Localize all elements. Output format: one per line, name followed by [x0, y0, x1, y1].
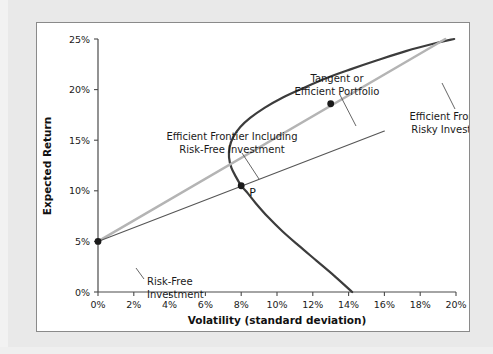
annotation-risk-free-investment-line2: Investment [147, 289, 204, 300]
x-tick-label-14%: 14% [338, 299, 359, 310]
portfolio-p-label: P [249, 186, 256, 199]
annotation-efficient-frontier-including-risk-free-line2: Risk-Free Investment [179, 144, 284, 155]
annotation-risk-free-investment-leader-line [136, 268, 144, 279]
annotation-efficient-frontier-of-risky-leader-line [442, 83, 455, 109]
screenshot-page: 0%2%4%6%8%10%12%14%16%18%20% 0%5%10%15%2… [0, 0, 493, 354]
x-axis-title: Volatility (standard deviation) [188, 314, 367, 326]
annotation-efficient-frontier-of-risky-line2: Risky Investments [411, 124, 469, 135]
x-tick-label-8%: 8% [234, 299, 249, 310]
tangent-portfolio-point [327, 100, 334, 107]
annotation-tangent-or-efficient-portfolio-line2: Efficient Portfolio [295, 86, 380, 97]
y-tick-label-10%: 10% [69, 185, 90, 196]
y-tick-label-25%: 25% [69, 34, 90, 45]
y-tick-label-20%: 20% [69, 84, 90, 95]
x-tick-label-4%: 4% [162, 299, 177, 310]
figure-frame: 0%2%4%6%8%10%12%14%16%18%20% 0%5%10%15%2… [36, 22, 470, 332]
x-tick-label-0%: 0% [90, 299, 105, 310]
annotation-efficient-frontier-including-risk-free-leader-line [242, 153, 259, 179]
annotation-efficient-frontier-of-risky-line1: Efficient Frontier of [409, 111, 469, 122]
y-axis-tick-labels: 0%5%10%15%20%25% [69, 34, 90, 298]
portfolio-p-point [238, 182, 245, 189]
annotation-risk-free-investment-line1: Risk-Free [147, 276, 193, 287]
efficient-frontier-chart: 0%2%4%6%8%10%12%14%16%18%20% 0%5%10%15%2… [37, 23, 469, 331]
page-background-band-bottom [0, 347, 493, 354]
annotation-tangent-or-efficient-portfolio-leader-line [340, 95, 356, 126]
chart-series-group [98, 39, 454, 292]
x-tick-label-2%: 2% [126, 299, 141, 310]
chart-annotations-group: Efficient Frontier IncludingRisk-Free In… [136, 73, 469, 300]
x-axis-tick-labels: 0%2%4%6%8%10%12%14%16%18%20% [90, 299, 466, 310]
x-tick-label-10%: 10% [266, 299, 287, 310]
y-tick-label-0%: 0% [75, 287, 90, 298]
axes [98, 39, 456, 292]
annotation-efficient-frontier-including-risk-free-line1: Efficient Frontier Including [166, 131, 297, 142]
risk-free-investment-point [95, 238, 102, 245]
x-tick-label-12%: 12% [302, 299, 323, 310]
y-tick-label-15%: 15% [69, 135, 90, 146]
annotation-tangent-or-efficient-portfolio-line1: Tangent or [309, 73, 364, 84]
x-tick-label-18%: 18% [410, 299, 431, 310]
page-background-band-left [0, 0, 8, 354]
y-tick-label-5%: 5% [75, 236, 90, 247]
y-axis-title: Expected Return [41, 117, 53, 215]
x-tick-label-16%: 16% [374, 299, 395, 310]
x-tick-label-6%: 6% [198, 299, 213, 310]
x-tick-label-20%: 20% [445, 299, 466, 310]
